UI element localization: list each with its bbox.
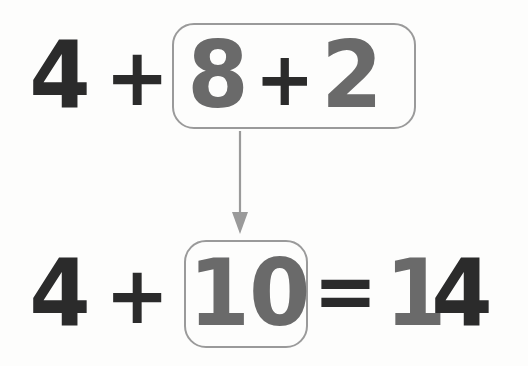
bottom-row-plus-operator: + xyxy=(105,256,159,336)
downward-arrow xyxy=(232,131,248,234)
diagram-canvas: 4 + 8 + 2 4 + 10 = 1 4 xyxy=(0,0,528,366)
top-row-plus-operator: + xyxy=(105,38,159,118)
bottom-row-addend-4: 4 xyxy=(29,248,89,340)
grouped-addend-8: 8 xyxy=(187,30,247,122)
grouped-plus-operator: + xyxy=(255,42,307,116)
result-digit-ones: 4 xyxy=(431,248,491,340)
equals-operator: = xyxy=(313,252,371,332)
grouped-addend-2: 2 xyxy=(321,30,381,122)
top-row-addend-4: 4 xyxy=(29,30,89,122)
grouped-value-10: 10 xyxy=(188,248,303,340)
result-digit-tens: 1 xyxy=(385,248,435,340)
